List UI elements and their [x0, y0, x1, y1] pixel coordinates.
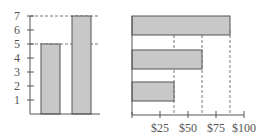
bar	[132, 16, 230, 35]
bar	[132, 50, 202, 69]
bar	[41, 44, 60, 114]
y-tick-label: 6	[14, 23, 20, 37]
y-tick-label: 7	[14, 9, 20, 23]
bar	[132, 82, 174, 101]
y-tick-label: 4	[14, 51, 20, 65]
chart-canvas: 1234567$25$50$75$100	[0, 0, 267, 137]
x-tick-label: $75	[207, 121, 225, 135]
bar	[72, 16, 91, 114]
y-tick-label: 5	[14, 37, 20, 51]
y-tick-label: 1	[14, 93, 20, 107]
x-tick-label: $25	[151, 121, 169, 135]
x-tick-label: $50	[179, 121, 197, 135]
y-tick-label: 2	[14, 79, 20, 93]
x-tick-label: $100	[232, 121, 256, 135]
y-tick-label: 3	[14, 65, 20, 79]
